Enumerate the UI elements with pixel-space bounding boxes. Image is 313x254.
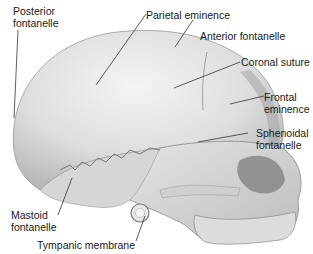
label-frontal-eminence: Frontal eminence <box>264 91 310 115</box>
label-sphenoidal-fontanelle: Sphenoidal fontanelle <box>256 127 309 151</box>
label-tympanic-membrane: Tympanic membrane <box>37 239 135 251</box>
label-posterior-fontanelle: Posterior fontanelle <box>13 5 59 29</box>
label-mastoid-fontanelle: Mastoid fontanelle <box>11 209 57 233</box>
label-coronal-suture: Coronal suture <box>241 56 310 68</box>
label-anterior-fontanelle: Anterior fontanelle <box>200 30 285 42</box>
skull-diagram: Posterior fontanelle Parietal eminence A… <box>0 0 313 254</box>
label-parietal-eminence: Parietal eminence <box>146 9 230 21</box>
